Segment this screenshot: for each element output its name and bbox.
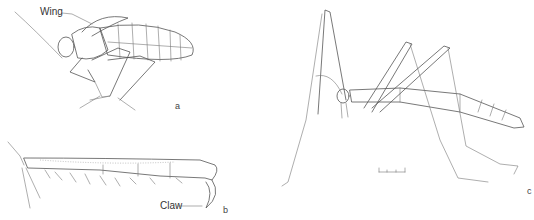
panel-a-label: a: [175, 102, 180, 111]
claw-callout: Claw: [160, 201, 182, 211]
scientific-figure: Wing a Claw b c: [0, 0, 534, 220]
panel-b-label: b: [223, 206, 228, 215]
wing-callout: Wing: [40, 7, 63, 17]
scale-bar: [379, 166, 406, 173]
panel-c-illustration: [0, 0, 534, 220]
panel-c-label: c: [527, 187, 532, 196]
